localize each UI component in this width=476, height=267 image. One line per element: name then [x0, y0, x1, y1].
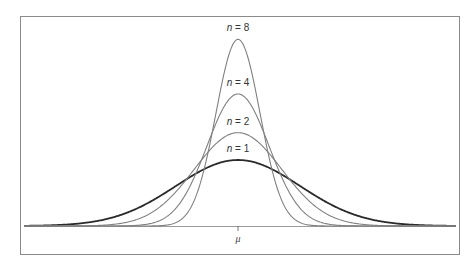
mu-tick-label: μ	[234, 233, 240, 244]
chart-figure: n = 1n = 2n = 4n = 8 μ	[0, 0, 476, 267]
distribution-curves	[24, 39, 456, 226]
curve-label-n-2: n = 2	[227, 116, 250, 127]
chart-canvas: n = 1n = 2n = 4n = 8 μ	[0, 0, 476, 267]
curve-label-n-8: n = 8	[227, 22, 250, 33]
curve-label-n-1: n = 1	[227, 143, 250, 154]
curve-n-1	[24, 160, 456, 226]
curve-label-n-4: n = 4	[227, 77, 250, 88]
figure-frame	[21, 17, 460, 255]
